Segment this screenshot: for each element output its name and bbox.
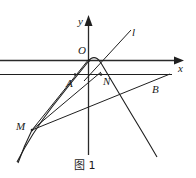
segment-m-to-b [32,74,170,130]
label-point-a: A [66,78,73,89]
point-n-marker [100,73,103,76]
label-origin: O [78,45,86,56]
label-point-b: B [152,84,159,95]
figure-container: O y x l A N B M 图 1 [0,0,196,178]
segment-m-to-o [32,59,89,130]
point-a-marker [74,73,76,75]
label-x-axis: x [178,63,183,74]
figure-caption: 图 1 [74,160,96,171]
label-line-l: l [132,27,135,38]
geometry-diagram [0,0,196,178]
label-y-axis: y [78,16,83,27]
label-point-m: M [16,121,25,132]
y-axis-arrowhead [85,15,93,26]
point-m-marker [31,129,34,132]
label-point-n: N [103,76,110,87]
parabola-curve [17,58,157,162]
point-o-marker [88,59,91,62]
